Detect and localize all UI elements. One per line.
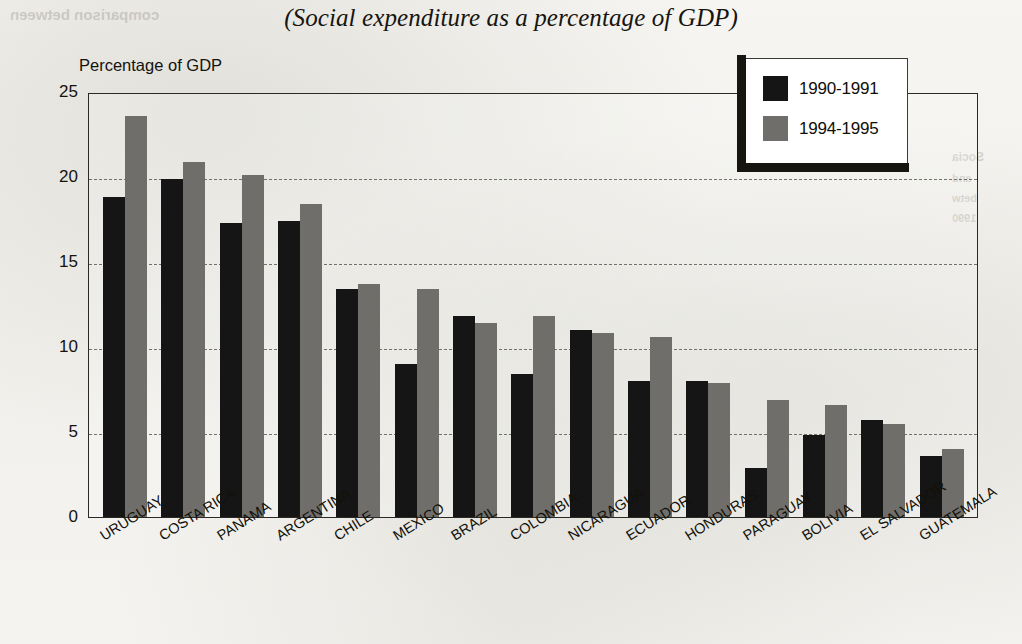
bar[interactable]: [103, 197, 125, 517]
bar[interactable]: [358, 284, 380, 517]
bar[interactable]: [592, 333, 614, 517]
bar-group: [96, 94, 154, 517]
bar-group: [154, 94, 212, 517]
bar-group: [563, 94, 621, 517]
bar[interactable]: [125, 116, 147, 517]
bar-group: [913, 94, 971, 517]
bar[interactable]: [278, 221, 300, 517]
bar[interactable]: [511, 374, 533, 517]
y-axis-tick-label: 10: [44, 337, 78, 357]
bar[interactable]: [767, 400, 789, 517]
bar-group: [329, 94, 387, 517]
bar-group: [621, 94, 679, 517]
y-axis-tick-label: 20: [44, 167, 78, 187]
legend-entry-1990-1991[interactable]: 1990-1991: [763, 76, 879, 101]
bar[interactable]: [708, 383, 730, 517]
bar[interactable]: [825, 405, 847, 517]
bar-group: [271, 94, 329, 517]
bar[interactable]: [161, 179, 183, 517]
bar[interactable]: [417, 289, 439, 517]
bar-group: [446, 94, 504, 517]
legend-swatch-icon-1990-1991: [763, 76, 788, 101]
bar[interactable]: [395, 364, 417, 517]
bar[interactable]: [533, 316, 555, 517]
legend-label-1994-1995: 1994-1995: [799, 119, 879, 139]
bar[interactable]: [183, 162, 205, 517]
bar[interactable]: [453, 316, 475, 517]
bar[interactable]: [686, 381, 708, 517]
y-axis-tick-label: 5: [44, 422, 78, 442]
y-axis-title: Percentage of GDP: [79, 56, 222, 75]
chart-legend: 1990-1991 1994-1995: [745, 58, 908, 166]
bar[interactable]: [300, 204, 322, 517]
bar-group: [388, 94, 446, 517]
chart-title: (Social expenditure as a percentage of G…: [0, 4, 1022, 32]
bar-group: [504, 94, 562, 517]
legend-swatch-icon-1994-1995: [763, 116, 788, 141]
bar[interactable]: [242, 175, 264, 517]
bar[interactable]: [336, 289, 358, 517]
bar[interactable]: [220, 223, 242, 517]
bar[interactable]: [570, 330, 592, 517]
bar-group: [213, 94, 271, 517]
bar[interactable]: [475, 323, 497, 517]
legend-entry-1994-1995[interactable]: 1994-1995: [763, 116, 879, 141]
y-axis-tick-label: 15: [44, 252, 78, 272]
bar-group: [679, 94, 737, 517]
y-axis-tick-label: 25: [44, 82, 78, 102]
bar[interactable]: [861, 420, 883, 517]
bar[interactable]: [650, 337, 672, 517]
legend-label-1990-1991: 1990-1991: [799, 79, 879, 99]
y-axis-tick-label: 0: [44, 507, 78, 527]
